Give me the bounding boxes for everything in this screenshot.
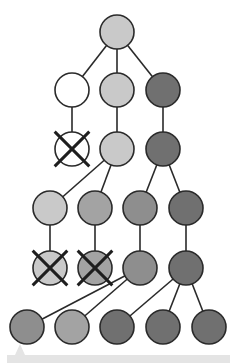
node-circle xyxy=(123,191,157,225)
tree-node xyxy=(55,73,89,107)
node-circle xyxy=(100,310,134,344)
node-circle xyxy=(146,310,180,344)
tree-node xyxy=(123,251,157,285)
node-circle xyxy=(78,191,112,225)
tree-node xyxy=(123,191,157,225)
tree-node xyxy=(169,191,203,225)
tree-node xyxy=(100,310,134,344)
tree-node xyxy=(146,132,180,166)
tree-nodes xyxy=(10,15,226,344)
tree-node xyxy=(146,310,180,344)
node-circle xyxy=(169,191,203,225)
crossed-node xyxy=(78,251,113,286)
tree-node xyxy=(10,310,44,344)
node-circle xyxy=(146,132,180,166)
node-circle xyxy=(100,132,134,166)
node-circle xyxy=(123,251,157,285)
node-circle xyxy=(55,73,89,107)
node-circle xyxy=(55,310,89,344)
node-circle xyxy=(192,310,226,344)
tree-node xyxy=(146,73,180,107)
tree-node xyxy=(100,73,134,107)
tree-diagram xyxy=(0,0,242,363)
node-circle xyxy=(100,15,134,49)
bottom-bar-shape xyxy=(7,344,230,363)
tree-node xyxy=(100,15,134,49)
crossed-node xyxy=(33,251,68,286)
crossed-node xyxy=(55,132,90,167)
node-circle xyxy=(146,73,180,107)
tree-node xyxy=(100,132,134,166)
bottom-bar xyxy=(7,344,230,363)
tree-node xyxy=(78,191,112,225)
node-circle xyxy=(169,251,203,285)
tree-node xyxy=(192,310,226,344)
tree-node xyxy=(55,310,89,344)
node-circle xyxy=(100,73,134,107)
node-circle xyxy=(10,310,44,344)
node-circle xyxy=(33,191,67,225)
tree-node xyxy=(33,191,67,225)
tree-node xyxy=(169,251,203,285)
